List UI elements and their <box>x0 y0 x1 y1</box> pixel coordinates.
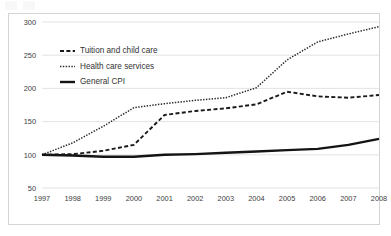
legend-label: Health care services <box>80 62 154 71</box>
x-tick-label: 1999 <box>95 194 111 203</box>
y-tick-label: 150 <box>24 117 36 126</box>
chart-legend: Tuition and child careHealth care servic… <box>60 46 158 86</box>
legend-label: Tuition and child care <box>80 46 158 55</box>
y-tick-label: 200 <box>24 84 36 93</box>
x-axis-tick-labels: 1997199819992000200120022003200420052006… <box>34 194 387 203</box>
y-tick-label: 300 <box>24 18 36 27</box>
x-tick-label: 2001 <box>156 194 172 203</box>
line-chart-plot: 50100150200250300 1997199819992000200120… <box>0 0 391 236</box>
series-line <box>42 139 379 157</box>
x-tick-label: 2004 <box>248 194 264 203</box>
series-line <box>42 92 379 155</box>
x-tick-label: 2005 <box>279 194 295 203</box>
x-tick-label: 1997 <box>34 194 50 203</box>
x-tick-label: 2007 <box>340 194 356 203</box>
y-tick-label: 250 <box>24 51 36 60</box>
y-axis-tick-labels: 50100150200250300 <box>24 18 36 193</box>
chart-container: 50100150200250300 1997199819992000200120… <box>0 0 391 236</box>
legend-label: General CPI <box>80 77 125 86</box>
x-tick-label: 2002 <box>187 194 203 203</box>
x-tick-label: 2003 <box>218 194 234 203</box>
x-tick-label: 2000 <box>126 194 142 203</box>
y-tick-label: 100 <box>24 151 36 160</box>
x-tick-label: 2008 <box>371 194 387 203</box>
x-tick-label: 2006 <box>310 194 326 203</box>
x-tick-label: 1998 <box>64 194 80 203</box>
y-tick-label: 50 <box>28 184 36 193</box>
